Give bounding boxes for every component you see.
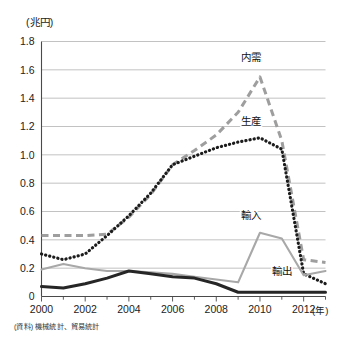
y-axis-tick-label: 1.8 <box>20 35 35 47</box>
series-annotation-輸出: 輸出 <box>272 265 292 277</box>
y-axis-tick-label: 0.2 <box>20 262 35 274</box>
line-chart-canvas: 00.20.40.60.81.01.21.41.61.8200020022004… <box>0 0 348 340</box>
y-axis-tick-label: 0.8 <box>20 177 35 189</box>
y-axis-tick-label: 0 <box>29 290 35 302</box>
x-axis-unit-label: (年) <box>312 303 328 317</box>
y-axis-tick-label: 1.0 <box>20 149 35 161</box>
chart-figure: (兆円) 00.20.40.60.81.01.21.41.61.82000200… <box>0 0 348 340</box>
series-annotation-輸入: 輸入 <box>241 209 262 221</box>
x-axis-tick-label: 2004 <box>117 303 141 315</box>
x-axis-tick-label: 2010 <box>248 303 272 315</box>
series-annotation-生産: 生産 <box>241 115 261 127</box>
y-axis-tick-label: 0.6 <box>20 205 35 217</box>
x-axis-tick-label: 2006 <box>161 303 185 315</box>
x-axis-tick-label: 2008 <box>205 303 229 315</box>
series-annotation-内需: 内需 <box>241 51 261 63</box>
x-axis-tick-label: 2000 <box>30 303 54 315</box>
series-line-生産 <box>42 138 326 284</box>
y-axis-tick-label: 1.2 <box>20 120 35 132</box>
y-axis-tick-label: 1.6 <box>20 64 35 76</box>
y-axis-tick-label: 1.4 <box>20 92 35 104</box>
series-line-内需 <box>42 77 326 263</box>
source-note: (資料) 機械統計、貿易統計 <box>14 321 99 331</box>
x-axis-tick-label: 2002 <box>74 303 98 315</box>
y-axis-tick-label: 0.4 <box>20 234 35 246</box>
